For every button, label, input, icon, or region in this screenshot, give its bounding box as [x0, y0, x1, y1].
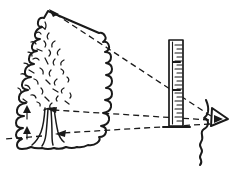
tree — [16, 11, 112, 149]
sight-line-to-treetop — [54, 13, 211, 116]
measuring-stick — [163, 40, 190, 127]
tree-height-measurement-diagram: Tree height measurement by sighting over… — [0, 0, 231, 172]
tree-foliage-strokes — [18, 22, 71, 108]
height-markers — [23, 105, 31, 139]
sight-line-to-tree-base — [62, 124, 210, 133]
sight-line-ground-extension — [5, 136, 42, 139]
observer-eye — [211, 108, 228, 126]
tree-trunk — [32, 108, 64, 146]
diagram-canvas: Tree height measurement by sighting over… — [0, 0, 231, 172]
sight-line-to-crown-base — [54, 110, 209, 120]
tree-crown — [16, 11, 112, 149]
sight-line-to-tree-base-arrowhead — [55, 130, 66, 137]
tree-crown-outline — [16, 11, 112, 149]
observer — [200, 100, 228, 165]
